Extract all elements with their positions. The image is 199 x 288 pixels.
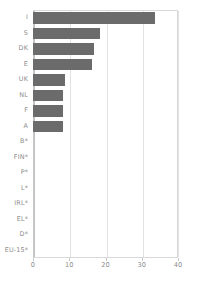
y-axis-label: NL [0, 88, 30, 104]
bar-row [33, 150, 178, 166]
x-axis-tick-label: 30 [137, 261, 146, 269]
bar-row [33, 88, 178, 104]
bar-row [33, 72, 178, 88]
bar-row [33, 181, 178, 197]
y-axis-label: FIN* [0, 150, 30, 166]
bar-row [33, 103, 178, 119]
x-axis-tick-label: 0 [31, 261, 35, 269]
y-axis-label: I [0, 10, 30, 26]
bar-row [33, 10, 178, 26]
y-axis-label: S [0, 26, 30, 42]
bar-nl [33, 90, 63, 101]
bar-f [33, 105, 63, 116]
y-axis-label: L* [0, 181, 30, 197]
bar-s [33, 28, 100, 39]
bar-dk [33, 43, 94, 54]
bar-row [33, 196, 178, 212]
bar-row [33, 119, 178, 135]
bar-uk [33, 74, 65, 85]
bar-row [33, 212, 178, 228]
x-axis-tick-label: 10 [65, 261, 74, 269]
y-axis-label: A [0, 119, 30, 135]
bar-row [33, 57, 178, 73]
y-axis-label: DK [0, 41, 30, 57]
x-axis-tick-label: 20 [101, 261, 110, 269]
x-axis-tick-label: 40 [174, 261, 183, 269]
x-axis-labels: 010203040 [0, 261, 199, 275]
y-axis-label: P* [0, 165, 30, 181]
bar-e [33, 59, 92, 70]
y-axis-label: UK [0, 72, 30, 88]
bar-chart: ISDKEUKNLFAB*FIN*P*L*IRL*EL*D*EU-15* 010… [0, 0, 199, 288]
bar-row [33, 134, 178, 150]
bar-row [33, 26, 178, 42]
y-axis-label: EU-15* [0, 243, 30, 259]
bar-row [33, 227, 178, 243]
bar-a [33, 121, 63, 132]
y-axis-labels: ISDKEUKNLFAB*FIN*P*L*IRL*EL*D*EU-15* [0, 10, 30, 258]
bar-row [33, 41, 178, 57]
bar-i [33, 12, 155, 23]
bar-row [33, 243, 178, 259]
bar-series [33, 10, 178, 258]
y-axis-label: F [0, 103, 30, 119]
y-axis-label: D* [0, 227, 30, 243]
bar-row [33, 165, 178, 181]
y-axis-label: E [0, 57, 30, 73]
y-axis-label: B* [0, 134, 30, 150]
y-axis-label: EL* [0, 212, 30, 228]
y-axis-label: IRL* [0, 196, 30, 212]
